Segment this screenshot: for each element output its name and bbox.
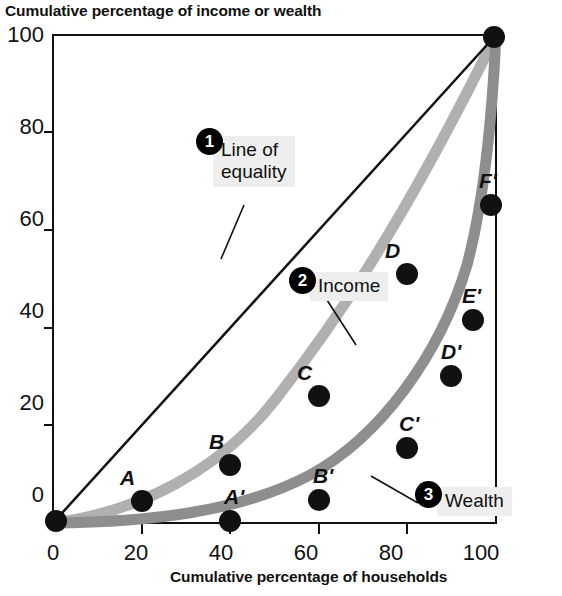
point-D [396, 263, 418, 285]
point-label-F-prime: F' [479, 169, 497, 193]
point-label-C-prime: C' [399, 412, 419, 436]
y-axis-ticks [44, 132, 53, 425]
x-axis-ticks [142, 523, 407, 534]
point-Eprime [462, 309, 484, 331]
point-label-D: D [385, 239, 400, 263]
callout-badge-3: 3 [415, 481, 442, 508]
leader-line-3 [371, 476, 418, 503]
point-Dprime [440, 365, 462, 387]
line-of-equality [53, 35, 496, 523]
point-label-E-prime: E' [462, 284, 481, 308]
point-label-D-prime: D' [441, 340, 461, 364]
point-Bprime [308, 489, 330, 511]
point-top [483, 26, 505, 48]
callout-badge-2: 2 [289, 267, 316, 294]
point-Aprime [219, 510, 241, 532]
point-label-A: A [120, 466, 135, 490]
point-origin [45, 510, 67, 532]
point-label-B-prime: B' [313, 464, 333, 488]
point-C [308, 385, 330, 407]
point-Cprime [396, 437, 418, 459]
point-label-A-prime: A' [224, 485, 244, 509]
point-Fprime [480, 194, 502, 216]
point-A [131, 490, 153, 512]
point-label-C: C [297, 361, 312, 385]
callout-income[interactable]: Income [310, 272, 388, 301]
lorenz-curve-chart: Cumulative percentage of income or wealt… [0, 0, 562, 596]
point-label-B: B [209, 430, 224, 454]
callout-badge-1: 1 [196, 128, 223, 155]
callout-line-of-equality[interactable]: Line of equality [213, 136, 295, 187]
callout-wealth[interactable]: Wealth [437, 487, 512, 516]
leader-line-1 [221, 205, 244, 259]
point-B [219, 454, 241, 476]
